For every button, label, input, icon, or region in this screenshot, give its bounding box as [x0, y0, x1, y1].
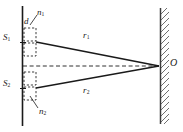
- label-s1: S1: [3, 33, 10, 42]
- leader-line-d: [30, 15, 37, 25]
- label-s2: S2: [3, 79, 10, 88]
- ray-r1: [36, 42, 159, 66]
- film-box-upper-1: [24, 28, 36, 41]
- label-r1: r1: [83, 31, 89, 40]
- leader-line-n2: [30, 96, 38, 108]
- film-box-lower-1: [24, 72, 36, 85]
- label-n1: n1: [37, 8, 44, 17]
- optics-ray-diagram: n1 n2 d S1 S2 r1 r2 O: [0, 0, 183, 132]
- film-box-upper-2: [24, 43, 36, 56]
- label-point-o: O: [170, 58, 177, 68]
- label-r2: r2: [83, 86, 89, 95]
- screen-hatch-group: [161, 8, 169, 124]
- label-d: d: [24, 17, 29, 26]
- label-n2: n2: [39, 107, 46, 116]
- film-box-group: [24, 28, 36, 100]
- ray-r2: [36, 66, 159, 88]
